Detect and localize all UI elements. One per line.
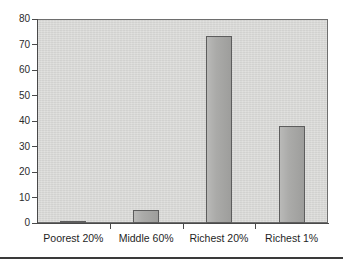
y-axis-tick-label-wrap: 60 bbox=[0, 65, 30, 75]
bar bbox=[279, 126, 305, 223]
y-axis-tick-mark bbox=[32, 146, 37, 147]
y-axis-tick-label-wrap: 10 bbox=[0, 193, 30, 203]
y-axis-tick-label-wrap: 80 bbox=[0, 14, 30, 24]
x-axis-category-label: Middle 60% bbox=[110, 232, 183, 244]
y-axis-tick-label-wrap: 50 bbox=[0, 91, 30, 101]
x-axis-category-label: Richest 1% bbox=[255, 232, 328, 244]
y-axis-tick-mark bbox=[32, 19, 37, 20]
y-axis-tick-mark bbox=[32, 70, 37, 71]
y-axis-tick-label: 10 bbox=[2, 193, 30, 203]
y-axis-line bbox=[37, 19, 38, 224]
bottom-divider bbox=[0, 257, 343, 259]
bar bbox=[206, 36, 232, 223]
y-axis-tick-label: 20 bbox=[2, 167, 30, 177]
y-axis-tick-label: 30 bbox=[2, 142, 30, 152]
bar-shading bbox=[134, 211, 158, 222]
x-axis-category-label: Poorest 20% bbox=[37, 232, 110, 244]
y-axis-tick-mark bbox=[32, 197, 37, 198]
y-axis-tick-label-wrap: 40 bbox=[0, 116, 30, 126]
bar bbox=[133, 210, 159, 223]
x-axis-category-label: Richest 20% bbox=[183, 232, 256, 244]
y-axis-tick-mark bbox=[32, 121, 37, 122]
bar-shading bbox=[207, 37, 231, 222]
y-axis-tick-label: 0 bbox=[2, 218, 30, 228]
x-axis-tick-mark bbox=[255, 224, 256, 229]
y-axis-tick-label-wrap: 30 bbox=[0, 142, 30, 152]
y-axis-tick-label: 40 bbox=[2, 116, 30, 126]
bar-shading bbox=[280, 127, 304, 222]
x-axis-tick-mark bbox=[183, 224, 184, 229]
bar-chart-figure: 01020304050607080 Poorest 20%Middle 60%R… bbox=[0, 0, 343, 265]
x-axis-tick-mark bbox=[110, 224, 111, 229]
y-axis-tick-label: 70 bbox=[2, 40, 30, 50]
y-axis-tick-mark bbox=[32, 44, 37, 45]
y-axis-tick-label-wrap: 0 bbox=[0, 218, 30, 228]
y-axis-tick-label: 80 bbox=[2, 14, 30, 24]
y-axis-tick-mark bbox=[32, 95, 37, 96]
y-axis-tick-label-wrap: 20 bbox=[0, 167, 30, 177]
y-axis-tick-label: 50 bbox=[2, 91, 30, 101]
y-axis-tick-label-wrap: 70 bbox=[0, 40, 30, 50]
y-axis-tick-label: 60 bbox=[2, 65, 30, 75]
y-axis-tick-mark bbox=[32, 172, 37, 173]
